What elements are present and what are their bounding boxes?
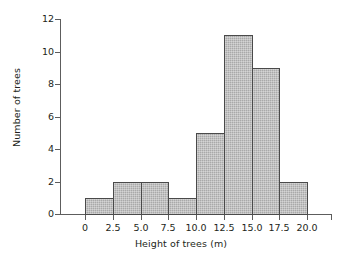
x-tick-mark — [252, 215, 253, 220]
y-tick-label: 10 — [14, 47, 54, 57]
histogram-bar — [141, 182, 169, 215]
x-axis-end-tick — [331, 215, 332, 220]
histogram-bar — [252, 68, 280, 215]
y-tick-mark — [55, 52, 60, 53]
y-tick-mark — [55, 149, 60, 150]
histogram-chart: Number of trees 024681012 02.55.07.510.0… — [0, 0, 362, 268]
x-tick-mark — [141, 215, 142, 220]
y-tick-label: 4 — [14, 144, 54, 154]
x-tick-mark — [113, 215, 114, 220]
histogram-bar — [224, 35, 253, 215]
histogram-bar — [279, 182, 308, 215]
histogram-bar — [113, 182, 142, 215]
y-tick-label: 0 — [14, 209, 54, 219]
y-tick-label: 2 — [14, 177, 54, 187]
histogram-bar — [196, 133, 225, 215]
x-tick-mark — [168, 215, 169, 220]
x-tick-mark — [85, 215, 86, 220]
y-tick-label: 6 — [14, 112, 54, 122]
y-tick-mark — [55, 182, 60, 183]
plot-area: 024681012 02.55.07.510.012.515.017.520.0 — [0, 0, 362, 268]
y-tick-mark — [55, 214, 60, 215]
y-axis-line — [60, 19, 61, 215]
y-tick-mark — [55, 19, 60, 20]
y-tick-label: 8 — [14, 79, 54, 89]
histogram-bar — [168, 198, 197, 215]
y-tick-mark — [55, 117, 60, 118]
histogram-bar — [85, 198, 114, 215]
x-axis-label: Height of trees (m) — [0, 238, 362, 249]
x-axis-label-text: Height of trees (m) — [135, 238, 227, 249]
x-tick-label: 20.0 — [285, 223, 329, 233]
y-tick-mark — [55, 84, 60, 85]
y-tick-label: 12 — [14, 14, 54, 24]
x-tick-mark — [279, 215, 280, 220]
x-tick-mark — [307, 215, 308, 220]
x-tick-mark — [196, 215, 197, 220]
x-tick-mark — [224, 215, 225, 220]
